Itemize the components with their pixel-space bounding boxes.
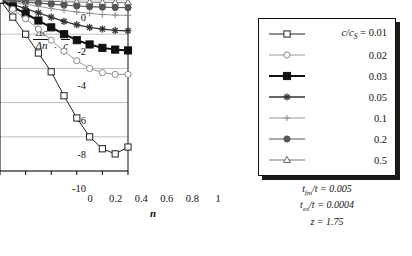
y-axis-tick-label: 0 <box>62 12 86 23</box>
note-3-rest: = 1.75 <box>314 216 343 227</box>
data-point-marker-open-circle <box>99 70 105 76</box>
note-1-subscript: fm <box>305 189 312 197</box>
data-point-marker-star <box>35 9 42 16</box>
data-point-marker-open-square <box>48 69 54 75</box>
data-point-marker-open-circle <box>112 71 118 77</box>
note-1-rest: /t = 0.005 <box>312 183 352 194</box>
legend-label-0.02: 0.02 <box>309 50 387 61</box>
data-point-marker-filled-square <box>283 72 290 79</box>
data-point-marker-filled-circle <box>87 4 93 10</box>
data-point-marker-open-triangle <box>284 156 291 162</box>
data-point-marker-filled-circle <box>112 4 118 10</box>
data-point-marker-open-circle <box>10 6 16 12</box>
legend-item-0.5[interactable]: 0.5 <box>259 150 395 170</box>
data-point-marker-plus <box>87 10 93 16</box>
data-point-marker-plus <box>99 11 105 17</box>
data-point-marker-open-square <box>0 0 3 3</box>
legend-value: 0.01 <box>369 27 387 38</box>
note-2-rest: /t = 0.0004 <box>309 199 354 210</box>
legend-value: 0.1 <box>374 113 387 124</box>
data-point-marker-open-circle <box>87 65 93 71</box>
data-point-marker-filled-circle <box>99 4 105 10</box>
legend-label-0.03: 0.03 <box>309 71 387 82</box>
legend-label-0.5: 0.5 <box>309 155 387 166</box>
data-point-marker-filled-square <box>86 41 93 48</box>
data-point-marker-open-circle <box>23 16 29 22</box>
legend-symbol-filled-circle <box>265 130 309 148</box>
legend-label-0.01: c/cS = 0.01 <box>309 27 387 41</box>
data-point-marker-open-square <box>284 31 290 37</box>
legend-symbol-filled-square <box>265 67 309 85</box>
data-point-marker-open-circle <box>35 26 41 32</box>
y-axis-tick-label: -6 <box>62 115 86 126</box>
legend-value: 0.05 <box>369 92 387 103</box>
data-point-marker-plus <box>125 12 131 18</box>
note-line-3: z = 1.75 <box>258 215 396 229</box>
data-point-marker-star <box>99 26 106 33</box>
x-axis-tick-label: 1 <box>203 193 233 204</box>
data-point-marker-open-square <box>23 31 29 37</box>
data-point-marker-filled-square <box>48 24 55 31</box>
data-point-marker-star <box>112 27 119 34</box>
legend-header-equals: = <box>357 27 368 38</box>
data-point-marker-open-square <box>125 144 131 150</box>
data-point-marker-star <box>283 93 290 100</box>
y-axis-tick-label: -4 <box>62 80 86 91</box>
figure-notes: tfm/t = 0.005 tex/t = 0.0004 z = 1.75 <box>258 182 396 228</box>
data-point-marker-open-circle <box>48 37 54 43</box>
legend-symbol-open-triangle <box>265 151 309 169</box>
legend-box: c/cS = 0.010.020.030.050.10.20.5 <box>258 18 396 176</box>
legend-item-0.2[interactable]: 0.2 <box>259 129 395 149</box>
chart-figure: Δc Δn · n c 0-2-4-6-8-10 00.20.40.60.81 … <box>0 0 412 256</box>
legend-item-0.01[interactable]: c/cS = 0.01 <box>259 24 395 44</box>
note-line-2: tex/t = 0.0004 <box>258 198 396 214</box>
data-point-marker-star <box>48 14 55 21</box>
y-axis-tick-labels: 0-2-4-6-8-10 <box>58 0 86 200</box>
data-point-marker-open-square <box>99 146 105 152</box>
data-point-marker-open-square <box>10 14 16 20</box>
legend-symbol-open-circle <box>265 46 309 64</box>
y-axis-tick-label: -8 <box>62 149 86 160</box>
data-point-marker-plus <box>112 12 118 18</box>
legend-item-0.03[interactable]: 0.03 <box>259 66 395 86</box>
legend-value: 0.5 <box>374 155 387 166</box>
legend-symbol-open-square <box>265 25 309 43</box>
legend-value: 0.02 <box>369 50 387 61</box>
legend-label-0.2: 0.2 <box>309 134 387 145</box>
data-point-marker-filled-square <box>112 46 119 53</box>
legend-item-0.05[interactable]: 0.05 <box>259 87 395 107</box>
legend-header-symbol: c/c <box>341 27 353 38</box>
legend-value: 0.03 <box>369 71 387 82</box>
legend-symbol-plus <box>265 109 309 127</box>
y-axis-tick-label: -2 <box>62 46 86 57</box>
data-point-marker-filled-square <box>99 44 106 51</box>
data-point-marker-filled-square <box>124 47 131 54</box>
data-point-marker-star <box>124 27 131 34</box>
data-point-marker-star <box>86 24 93 31</box>
data-point-marker-open-square <box>87 134 93 140</box>
data-point-marker-filled-square <box>35 17 42 24</box>
data-point-marker-plus <box>284 115 290 121</box>
data-point-marker-open-circle <box>125 71 131 77</box>
legend-label-0.05: 0.05 <box>309 92 387 103</box>
x-axis-title: n <box>138 207 168 219</box>
data-point-marker-filled-circle <box>125 5 131 11</box>
data-point-marker-open-square <box>35 50 41 56</box>
legend-symbol-star <box>265 88 309 106</box>
data-point-marker-open-circle <box>284 52 290 58</box>
legend-value: 0.2 <box>374 134 387 145</box>
legend-item-0.1[interactable]: 0.1 <box>259 108 395 128</box>
data-point-marker-filled-circle <box>284 136 290 142</box>
data-point-marker-open-square <box>112 151 118 157</box>
legend-label-0.1: 0.1 <box>309 113 387 124</box>
legend-item-0.02[interactable]: 0.02 <box>259 45 395 65</box>
note-line-1: tfm/t = 0.005 <box>258 182 396 198</box>
